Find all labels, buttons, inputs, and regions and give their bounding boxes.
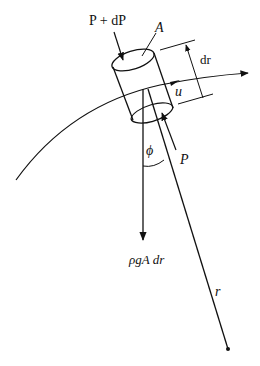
label-weight: ρgA dr	[128, 252, 165, 267]
label-element-length: dr	[200, 52, 212, 67]
radius-line	[148, 89, 228, 349]
streamline-curve	[16, 73, 248, 180]
label-area: A	[154, 20, 164, 35]
label-pressure-top: P + dP	[89, 13, 126, 28]
label-angle: ϕ	[146, 143, 153, 158]
dr-extension-top	[160, 40, 195, 50]
diagram-canvas: P + dP A dr u ϕ P ρgA dr r	[0, 0, 260, 366]
angle-arc	[143, 160, 164, 166]
label-pressure-bottom: P	[179, 152, 189, 167]
pressure-top-arrow	[114, 32, 123, 60]
label-radius: r	[215, 284, 221, 299]
center-point	[226, 347, 230, 351]
label-velocity: u	[175, 84, 182, 99]
dr-extension-bottom	[178, 94, 213, 104]
pressure-bottom-arrow	[162, 113, 176, 150]
